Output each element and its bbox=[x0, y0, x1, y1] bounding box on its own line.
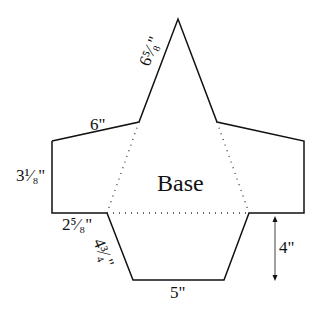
arrow-down-icon bbox=[273, 275, 278, 281]
fold-line-left bbox=[107, 122, 139, 213]
outline bbox=[52, 19, 304, 280]
base-label: Base bbox=[157, 171, 204, 195]
side-edge-label: 3¹⁄₈" bbox=[16, 167, 45, 184]
bottom-edge-label: 5" bbox=[170, 284, 185, 301]
height-label: 4" bbox=[279, 239, 294, 256]
bottom-ledge-label: 2⁵⁄₈" bbox=[62, 216, 92, 233]
arrow-up-icon bbox=[273, 216, 278, 222]
top-edge-label: 6" bbox=[90, 116, 105, 133]
fold-line-right bbox=[217, 122, 249, 213]
